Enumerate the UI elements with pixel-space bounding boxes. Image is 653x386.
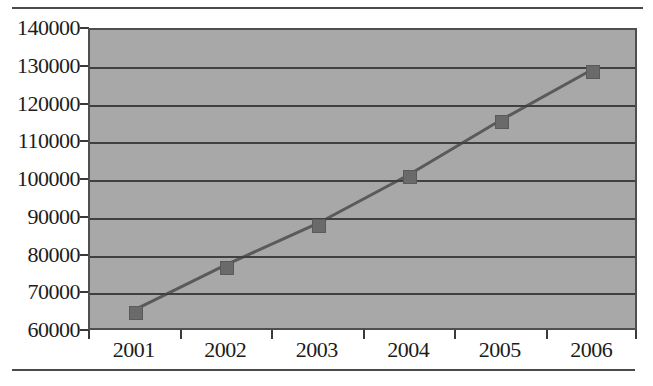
y-tick-label: 110000 [18, 130, 80, 152]
line-chart-figure: 1400001300001200001100001000009000080000… [0, 0, 653, 386]
y-tick-label: 70000 [28, 281, 81, 303]
x-tick-label: 2006 [570, 338, 612, 362]
data-point-marker [495, 115, 509, 129]
data-point-marker [403, 170, 417, 184]
y-tick-label: 60000 [28, 319, 81, 341]
y-tick-label: 130000 [17, 55, 80, 77]
data-point-marker [220, 261, 234, 275]
x-tick-label: 2005 [479, 338, 521, 362]
gridline [90, 256, 635, 258]
y-axis: 1400001300001200001100001000009000080000… [0, 28, 80, 330]
plot-area [88, 28, 637, 330]
series-line [90, 30, 635, 328]
y-tick-label: 90000 [28, 206, 81, 228]
gridline [90, 67, 635, 69]
gridline [90, 293, 635, 295]
y-tick-label: 100000 [17, 168, 80, 190]
y-tick-label: 120000 [17, 93, 80, 115]
page-rule-top [12, 7, 643, 9]
x-tick-label: 2002 [204, 338, 246, 362]
data-point-marker [129, 306, 143, 320]
x-tick-label: 2004 [387, 338, 429, 362]
page-rule-bottom [12, 369, 635, 371]
y-tick-label: 80000 [28, 244, 81, 266]
x-tick-label: 2003 [296, 338, 338, 362]
x-tick-label: 2001 [113, 338, 155, 362]
x-axis: 200120022003200420052006 [88, 338, 637, 368]
gridline [90, 142, 635, 144]
gridline [90, 180, 635, 182]
data-point-marker [312, 219, 326, 233]
y-tick-label: 140000 [17, 17, 80, 39]
gridline [90, 105, 635, 107]
data-point-marker [586, 65, 600, 79]
gridline [90, 218, 635, 220]
